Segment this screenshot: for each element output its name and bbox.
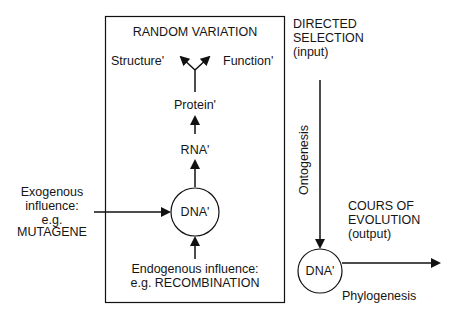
phylogenesis-label: Phylogenesis — [342, 289, 416, 303]
structure-arrow — [181, 57, 195, 70]
dna-label-inner: DNA' — [165, 205, 225, 219]
endogenous-line2: e.g. RECOMBINATION — [110, 276, 280, 290]
exogenous-line2: influence: — [2, 199, 102, 213]
dna-label-output: DNA' — [295, 264, 345, 278]
endogenous-line1: Endogenous influence: — [110, 262, 280, 276]
exogenous-line1: Exogenous — [2, 185, 102, 199]
output-line2: EVOLUTION — [348, 213, 420, 227]
function-arrow — [195, 57, 209, 70]
exogenous-line4: MUTAGENE — [2, 225, 102, 239]
random-variation-title: RANDOM VARIATION — [105, 25, 285, 39]
protein-label: Protein' — [155, 98, 235, 112]
ontogenesis-label: Ontogenesis — [297, 120, 311, 200]
rna-label: RNA' — [155, 143, 235, 157]
function-label: Function' — [223, 54, 273, 68]
structure-label: Structure' — [111, 54, 164, 68]
directed-selection-line1: DIRECTED — [293, 17, 357, 31]
output-line3: (output) — [348, 227, 391, 241]
directed-selection-line2: SELECTION — [293, 31, 364, 45]
directed-selection-line3: (input) — [293, 45, 328, 59]
output-line1: COURS OF — [348, 199, 414, 213]
